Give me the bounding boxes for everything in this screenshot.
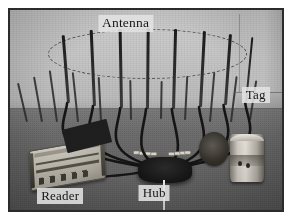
tag-mark-1	[238, 161, 242, 166]
label-antenna: Antenna	[98, 15, 153, 32]
label-hub: Hub	[139, 185, 170, 201]
photograph: Antenna Reader Hub Tag	[10, 10, 282, 210]
background-rod-6	[129, 80, 131, 120]
background-rod-7	[160, 81, 162, 119]
tag-rim	[230, 134, 264, 141]
reader-left-bracket	[30, 153, 36, 189]
tag-adjacent-disc	[199, 132, 229, 166]
tag-object	[230, 134, 264, 182]
tag-mark-2	[246, 163, 250, 168]
photo-frame: Antenna Reader Hub Tag	[8, 8, 284, 212]
label-tag: Tag	[242, 87, 270, 103]
figure-plate: Antenna Reader Hub Tag	[0, 0, 292, 220]
label-reader: Reader	[37, 188, 83, 204]
